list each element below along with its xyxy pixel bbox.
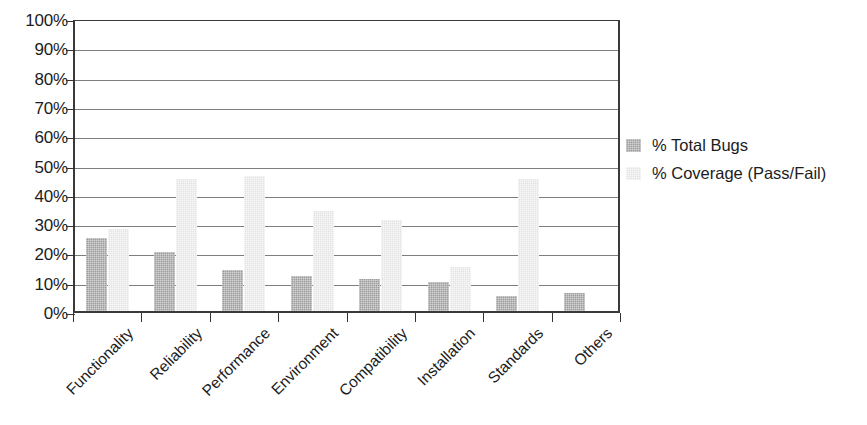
bar-group	[349, 21, 417, 311]
x-axis-tickmark	[620, 313, 621, 322]
bar	[381, 220, 402, 311]
bar	[496, 296, 517, 311]
legend-swatch	[626, 167, 641, 180]
y-axis-tick-label: 60%	[6, 129, 68, 146]
bar-group	[554, 21, 622, 311]
x-axis-category-label: Others	[571, 325, 615, 369]
y-axis-tick-label: 50%	[6, 159, 68, 176]
y-axis-tickmark	[66, 109, 75, 110]
bar-group	[75, 21, 143, 311]
bar	[222, 270, 243, 311]
bar	[450, 267, 471, 311]
legend-item[interactable]: % Total Bugs	[626, 131, 862, 159]
bar	[176, 179, 197, 311]
legend-label: % Coverage (Pass/Fail)	[652, 165, 826, 182]
x-axis-category-label: Reliability	[147, 325, 205, 383]
y-axis-tickmark	[66, 285, 75, 286]
x-axis-category-label: Installation	[415, 325, 479, 389]
plot-area	[73, 20, 620, 313]
bar	[244, 176, 265, 311]
x-axis-category-label: Compatibility	[336, 325, 410, 399]
y-axis-tick-labels: 100%90%80%70%60%50%40%30%20%10%0%	[4, 0, 68, 425]
bar-group	[280, 21, 348, 311]
x-axis-tickmark	[278, 313, 279, 322]
x-axis-tickmark	[210, 313, 211, 322]
y-axis-tickmark	[66, 50, 75, 51]
x-axis-tickmark	[347, 313, 348, 322]
bar-group	[143, 21, 211, 311]
y-axis-tickmark	[66, 255, 75, 256]
x-axis-category-label: Standards	[485, 325, 546, 386]
bar	[86, 238, 107, 311]
y-axis-tick-label: 70%	[6, 100, 68, 117]
y-axis-tickmark	[66, 80, 75, 81]
bar	[359, 279, 380, 311]
chart-legend: % Total Bugs% Coverage (Pass/Fail)	[626, 131, 862, 187]
x-axis-tickmark	[73, 313, 74, 322]
bar-chart: 100%90%80%70%60%50%40%30%20%10%0% Functi…	[0, 0, 867, 425]
bar-group	[212, 21, 280, 311]
y-axis-tick-label: 20%	[6, 246, 68, 263]
y-axis-tickmark	[66, 168, 75, 169]
legend-item[interactable]: % Coverage (Pass/Fail)	[626, 159, 862, 187]
bar	[518, 179, 539, 311]
x-axis-category-labels: FunctionalityReliabilityPerformanceEnvir…	[73, 325, 620, 425]
x-axis-category-label: Performance	[199, 325, 273, 399]
bar-group	[417, 21, 485, 311]
x-axis-tickmarks	[73, 313, 620, 325]
bar	[313, 211, 334, 311]
bar	[291, 276, 312, 311]
y-axis-tickmark	[66, 138, 75, 139]
y-axis-tick-label: 100%	[6, 12, 68, 29]
legend-swatch	[626, 139, 641, 152]
x-axis-tickmark	[552, 313, 553, 322]
y-axis-tickmark	[66, 226, 75, 227]
bar-group	[485, 21, 553, 311]
y-axis-tickmark	[66, 197, 75, 198]
y-axis-tick-label: 10%	[6, 276, 68, 293]
bar	[108, 229, 129, 311]
y-axis-tick-label: 90%	[6, 41, 68, 58]
x-axis-tickmark	[415, 313, 416, 322]
x-axis-tickmark	[483, 313, 484, 322]
bar	[154, 252, 175, 311]
y-axis-tick-label: 30%	[6, 217, 68, 234]
x-axis-tickmark	[141, 313, 142, 322]
bar	[564, 293, 585, 311]
y-axis-tickmark	[66, 21, 75, 22]
y-axis-tick-label: 40%	[6, 188, 68, 205]
x-axis-category-label: Environment	[269, 325, 342, 398]
y-axis-tick-label: 0%	[6, 305, 68, 322]
x-axis-category-label: Functionality	[64, 325, 137, 398]
y-axis-tick-label: 80%	[6, 71, 68, 88]
bar	[428, 282, 449, 311]
legend-label: % Total Bugs	[652, 137, 748, 154]
